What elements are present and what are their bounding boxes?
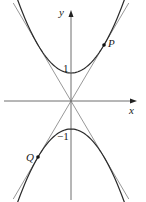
point-q-dot [36,155,40,159]
x-axis-label: x [128,104,134,116]
y-axis-label: y [58,6,64,18]
point-q-label: Q [26,151,34,163]
point-p-dot [102,43,106,47]
y-axis-arrow-icon [69,10,74,17]
upper-vertex-label: 1 [63,62,69,74]
lower-vertex-label: −1 [57,130,69,142]
coordinate-axes [4,10,137,200]
x-axis-arrow-icon [130,99,137,104]
point-p-label: P [107,37,115,49]
parabola-tangent-diagram: y x 1 −1 P Q [0,0,146,202]
